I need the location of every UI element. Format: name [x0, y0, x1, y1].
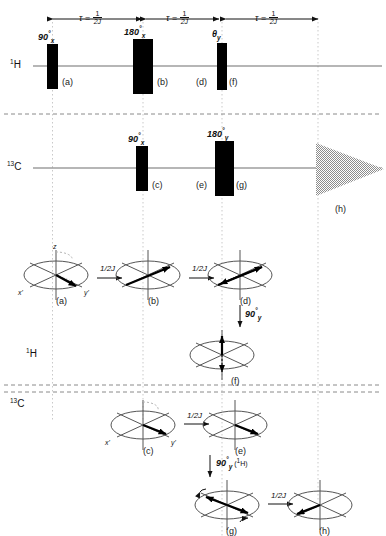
pulse-sequence-figure: τ = 1 2J τ = 1 2J τ = 1 2J 1H 13C 90°x (…: [0, 0, 386, 536]
tag-d-vector: (d): [240, 297, 251, 306]
pulse-c13-90x: [136, 146, 148, 191]
vector-sphere-c: [111, 400, 175, 450]
vector-sphere-g: [195, 480, 259, 530]
pulse-label-c13-180y: 180°y: [207, 128, 228, 141]
channel-label-c13: 13C: [7, 161, 21, 172]
tag-f-vector: (f): [231, 377, 240, 386]
tau-equals-1: =: [85, 13, 90, 23]
pulse-h1-90x-angle: 90: [38, 32, 48, 42]
tag-a-vector: (a): [56, 297, 67, 306]
pulse-label-h1-theta-y: θy: [212, 30, 221, 41]
pulse-c13-180y-phase: y: [225, 134, 229, 141]
vector-sphere-h: [288, 480, 352, 530]
tag-d-pulse: (d): [196, 78, 207, 87]
pulse-label-h1-90x: 90°x: [38, 31, 54, 44]
pulse-h1-theta-y: [217, 43, 227, 90]
tau-symbol-3: τ: [255, 13, 258, 23]
transition-label-ab: 1/2J: [100, 265, 115, 273]
vector-sphere-b: [116, 250, 180, 300]
tag-b-vector: (b): [148, 297, 159, 306]
tag-c-pulse: (c): [152, 181, 163, 190]
tag-c-vector: (c): [143, 447, 154, 456]
tag-f-pulse: (f): [229, 78, 238, 87]
tau-equals-2: =: [172, 13, 177, 23]
transition-label-df: 90°y: [245, 308, 261, 321]
pulse-c13-90x-angle: 90: [128, 134, 138, 144]
tau-label-2: τ = 1 2J: [166, 10, 189, 26]
vector-sphere-a: [24, 250, 88, 300]
tag-e-vector: (e): [235, 447, 246, 456]
vector-sphere-f: [190, 330, 254, 380]
tau-symbol-2: τ: [166, 13, 169, 23]
channel-c13-nucleus: C: [14, 161, 21, 172]
transition-label-bd: 1/2J: [192, 265, 207, 273]
tag-h-vector: (h): [319, 527, 330, 536]
transition-df-phase: y: [258, 314, 262, 321]
pulse-c13-180y: [215, 141, 234, 196]
guide-lines: [53, 18, 319, 536]
pulse-c13-180y-angle: 180: [207, 129, 222, 139]
transition-label-gh: 1/2J: [271, 492, 286, 500]
axis-label-y-c: y': [171, 439, 176, 446]
fid-decay-signal: [316, 143, 384, 196]
channel-label-h1: 1H: [10, 59, 21, 70]
tau-fraction-3: 1 2J: [269, 10, 278, 26]
pulse-label-c13-90x: 90°x: [128, 133, 144, 146]
pulse-h1-180x-angle: 180: [124, 27, 139, 37]
tag-g-pulse: (g): [236, 181, 247, 190]
vector-sphere-d: [208, 250, 272, 300]
pulse-h1-90x-phase: x: [51, 37, 55, 44]
tau-denominator-2: 2J: [180, 18, 189, 25]
vector-c13-nucleus: C: [17, 398, 24, 409]
axis-label-x-c: x': [105, 439, 110, 446]
tag-h-acquisition: (h): [335, 205, 346, 214]
transition-df-angle: 90: [245, 309, 255, 319]
transition-label-eg: 90°y (1H): [216, 457, 248, 470]
axis-label-z-a: z: [53, 243, 57, 250]
transition-eg-angle: 90: [216, 458, 226, 468]
tau-fraction-1: 1 2J: [93, 10, 102, 26]
tag-g-vector: (g): [226, 527, 237, 536]
pulse-c13-90x-phase: x: [141, 139, 145, 146]
tag-a-pulse: (a): [62, 78, 73, 87]
axis-label-x-a: x': [18, 289, 23, 296]
channel-h1-nucleus: H: [14, 59, 21, 70]
tau-label-3: τ = 1 2J: [255, 10, 278, 26]
tau-denominator-1: 2J: [93, 18, 102, 25]
vector-sphere-e: [203, 400, 267, 450]
pulse-h1-theta-phase: y: [217, 34, 221, 41]
tau-symbol-1: τ: [79, 13, 82, 23]
tau-equals-3: =: [261, 13, 266, 23]
tau-numerator-1: 1: [93, 10, 102, 18]
pulse-h1-90x: [47, 44, 58, 89]
tau-numerator-2: 1: [180, 10, 189, 18]
transition-eg-note-nucleus: H: [240, 460, 245, 467]
vector-section-label-h1: 1H: [26, 348, 37, 359]
axis-label-y-a: y': [84, 289, 89, 296]
vector-section-label-c13: 13C: [10, 398, 24, 409]
pulse-h1-180x-phase: x: [142, 32, 146, 39]
tau-label-1: τ = 1 2J: [79, 10, 102, 26]
transition-label-ce: 1/2J: [187, 412, 202, 420]
tau-fraction-2: 1 2J: [180, 10, 189, 26]
tag-e-pulse: (e): [196, 181, 207, 190]
pulse-label-h1-180x: 180°x: [124, 26, 145, 39]
tag-b-pulse: (b): [157, 78, 168, 87]
tau-denominator-3: 2J: [269, 18, 278, 25]
pulse-h1-180x: [133, 39, 153, 94]
vector-h1-nucleus: H: [30, 348, 37, 359]
tau-numerator-3: 1: [269, 10, 278, 18]
